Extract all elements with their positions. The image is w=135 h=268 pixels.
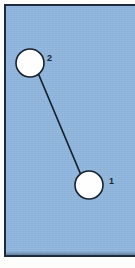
figure-root: 2 1 — [0, 0, 135, 268]
graph-node-1[interactable] — [75, 171, 103, 199]
graph-node-2[interactable] — [16, 49, 44, 77]
graph-node-label-1: 1 — [109, 176, 114, 186]
graph-node-label-2: 2 — [47, 53, 52, 63]
graph-canvas: 2 1 — [0, 0, 131, 264]
graph-edge-node2-node1 — [39, 74, 81, 174]
